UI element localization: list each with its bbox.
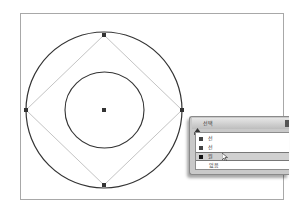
- list-item-selected[interactable]: 원: [196, 152, 289, 161]
- item-label: 선: [208, 134, 213, 143]
- popup-title: 선택: [203, 118, 213, 129]
- handle-right[interactable]: [180, 108, 184, 112]
- line-swatch-icon: [199, 146, 203, 150]
- selection-list: 선 선 원 없음: [195, 132, 289, 170]
- item-label: 없음: [209, 161, 219, 170]
- list-item[interactable]: 없음: [196, 161, 289, 170]
- popup-title-bar[interactable]: 선택: [192, 118, 289, 129]
- circle-swatch-icon: [199, 155, 203, 159]
- handle-bottom[interactable]: [102, 183, 106, 187]
- close-icon[interactable]: [285, 120, 289, 127]
- item-label: 선: [208, 143, 213, 152]
- handle-left[interactable]: [24, 108, 28, 112]
- item-label: 원: [208, 152, 213, 161]
- line-swatch-icon: [199, 137, 203, 141]
- handle-top[interactable]: [102, 33, 106, 37]
- drawing-canvas[interactable]: [0, 0, 302, 211]
- handle-center[interactable]: [102, 108, 106, 112]
- shapes-icon: [194, 120, 201, 127]
- list-item[interactable]: 선: [196, 134, 289, 143]
- selection-popup: 선택 선 선 원 없음: [189, 116, 289, 175]
- list-item[interactable]: 선: [196, 143, 289, 152]
- mouse-cursor-icon: [222, 153, 228, 161]
